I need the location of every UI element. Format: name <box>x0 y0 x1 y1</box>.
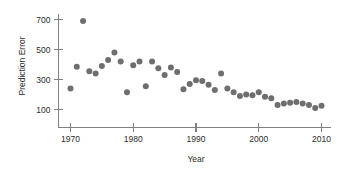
data-point <box>168 65 174 71</box>
y-axis-tick-label: 300 <box>36 75 50 85</box>
data-point <box>118 59 124 65</box>
y-axis-title: Prediction Error <box>17 36 27 95</box>
data-point <box>275 102 281 108</box>
data-point <box>137 59 143 65</box>
data-point <box>124 89 130 95</box>
data-point <box>287 100 293 106</box>
data-point <box>187 81 193 87</box>
chart-background <box>0 0 337 170</box>
data-point <box>218 71 224 77</box>
data-point <box>243 92 249 98</box>
x-axis-tick-label: 1980 <box>124 134 143 144</box>
data-point <box>319 103 325 109</box>
data-point <box>86 68 92 74</box>
data-point <box>249 92 255 98</box>
data-point <box>162 72 168 78</box>
x-axis-title: Year <box>187 154 204 164</box>
x-axis-tick-label: 1990 <box>187 134 206 144</box>
data-point <box>68 86 74 92</box>
data-point <box>105 57 111 63</box>
data-point <box>293 99 299 105</box>
x-axis-tick-label: 2000 <box>249 134 268 144</box>
data-point <box>306 102 312 108</box>
x-axis-tick-label: 1970 <box>61 134 80 144</box>
scatter-plot-figure: 100300500700 19701980199020002010 Predic… <box>0 0 337 170</box>
data-point <box>224 86 230 92</box>
data-point <box>256 89 262 95</box>
data-point <box>199 78 205 84</box>
data-point <box>281 101 287 107</box>
data-point <box>93 71 99 77</box>
data-point <box>206 82 212 88</box>
data-point <box>212 87 218 93</box>
y-axis-tick-label: 500 <box>36 45 50 55</box>
data-point <box>193 77 199 83</box>
data-point <box>143 83 149 89</box>
data-point <box>155 65 161 71</box>
data-point <box>231 89 237 95</box>
data-point <box>80 18 86 24</box>
data-point <box>180 86 186 92</box>
y-axis-tick-label: 100 <box>36 105 50 115</box>
x-axis-tick-label: 2010 <box>312 134 331 144</box>
data-point <box>130 62 136 68</box>
data-point <box>174 69 180 75</box>
chart-canvas: 100300500700 19701980199020002010 Predic… <box>0 0 337 170</box>
data-point <box>99 63 105 69</box>
data-point <box>268 95 274 101</box>
data-point <box>74 64 80 70</box>
data-point <box>262 94 268 100</box>
data-point <box>312 105 318 111</box>
data-point <box>111 50 117 56</box>
data-point <box>237 93 243 99</box>
y-axis-tick-label: 700 <box>36 15 50 25</box>
data-point <box>149 59 155 65</box>
data-point <box>300 101 306 107</box>
